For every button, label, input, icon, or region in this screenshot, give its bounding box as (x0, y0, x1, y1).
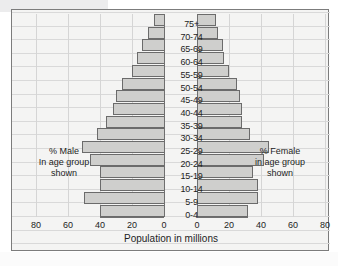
female-side-annotation: % Female in age group shown (234, 146, 326, 179)
bar-male-65-69 (142, 39, 164, 51)
age-label-20-24: 20-24 (164, 158, 219, 170)
age-label-5-9: 5-9 (164, 196, 219, 208)
male-side-annotation: % Male In age group shown (18, 146, 110, 179)
scan-margin-tint-bottom (0, 252, 338, 266)
age-label-30-34: 30-34 (164, 132, 219, 144)
age-label-40-44: 40-44 (164, 107, 219, 119)
age-label-10-14: 10-14 (164, 183, 219, 195)
age-label-65-69: 65-69 (164, 43, 219, 55)
bar-male-30-34 (97, 128, 164, 140)
age-label-15-19: 15-19 (164, 170, 219, 182)
age-label-50-54: 50-54 (164, 82, 219, 94)
age-label-55-59: 55-59 (164, 69, 219, 81)
bar-male-55-59 (132, 65, 164, 77)
xtick-left-60: 60 (56, 220, 80, 230)
xtick-left-0: 0 (152, 220, 176, 230)
age-label-0-4: 0-4 (164, 209, 219, 221)
male-annotation-line-3: shown (18, 168, 110, 179)
age-label-60-64: 60-64 (164, 56, 219, 68)
gridline-left-80 (36, 14, 37, 217)
age-group-label-column: 75+70-7465-6960-6455-5950-5445-4940-4435… (164, 14, 219, 218)
population-pyramid-figure: 75+70-7465-6960-6455-5950-5445-4940-4435… (0, 0, 338, 266)
left-baseline (100, 217, 164, 218)
bar-male-45-49 (116, 90, 164, 102)
bar-male-50-54 (122, 78, 164, 90)
gridline-right-80 (325, 14, 326, 217)
male-annotation-line-1: % Male (18, 146, 110, 157)
gridline-right-40 (261, 14, 262, 217)
panel-rule (12, 12, 330, 13)
female-annotation-line-2: in age group (234, 157, 326, 168)
xtick-right-60: 60 (281, 220, 305, 230)
bar-male-5-9 (84, 192, 164, 204)
female-annotation-line-1: % Female (234, 146, 326, 157)
xtick-right-40: 40 (249, 220, 273, 230)
age-label-45-49: 45-49 (164, 94, 219, 106)
age-label-70-74: 70-74 (164, 31, 219, 43)
male-annotation-line-2: In age group (18, 157, 110, 168)
bar-male-0-4 (100, 205, 164, 217)
gridline-right-60 (293, 14, 294, 217)
xtick-left-40: 40 (88, 220, 112, 230)
bar-male-60-64 (137, 52, 164, 64)
xtick-left-80: 80 (24, 220, 48, 230)
bar-male-75+ (154, 14, 164, 26)
bar-male-70-74 (148, 27, 164, 39)
bar-male-10-14 (100, 179, 164, 191)
xtick-right-0: 0 (185, 220, 209, 230)
bar-male-40-44 (113, 103, 164, 115)
gridline-left-60 (68, 14, 69, 217)
age-label-25-29: 25-29 (164, 145, 219, 157)
chart-panel: 75+70-7465-6960-6455-5950-5445-4940-4435… (11, 9, 329, 251)
bar-male-35-39 (106, 116, 164, 128)
xtick-right-80: 80 (313, 220, 337, 230)
age-label-35-39: 35-39 (164, 120, 219, 132)
age-label-75+: 75+ (164, 18, 219, 30)
female-annotation-line-3: shown (234, 168, 326, 179)
x-axis-title: Population in millions (12, 233, 330, 244)
xtick-left-20: 20 (120, 220, 144, 230)
xtick-right-20: 20 (217, 220, 241, 230)
